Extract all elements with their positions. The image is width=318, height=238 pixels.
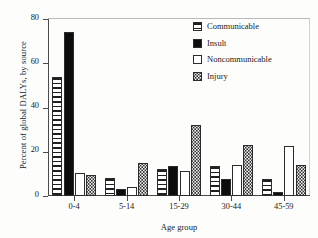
legend-label: Noncommunicable: [207, 55, 272, 64]
bar-injury-5-14: [138, 163, 148, 196]
bar-noncommunicable-0-4: [75, 173, 85, 196]
bar-insult-45-59: [273, 192, 283, 196]
bar-insult-0-4: [64, 32, 74, 196]
x-tick-label-30-44: 30-44: [201, 202, 261, 211]
bar-group-5-14: [100, 19, 152, 196]
legend-item-insult: Insult: [193, 39, 272, 48]
bar-insult-15-29: [168, 166, 178, 196]
swatch-empty-icon: [193, 55, 202, 64]
chart-legend: CommunicableInsultNoncommunicableInjury: [193, 22, 272, 81]
legend-label: Communicable: [207, 22, 259, 31]
swatch-solid-icon: [193, 39, 202, 48]
legend-item-communicable: Communicable: [193, 22, 272, 31]
x-axis-title: Age group: [48, 222, 310, 232]
y-tick-label: 40: [31, 101, 39, 110]
y-tick-label: 0: [35, 190, 39, 199]
x-tick-mark-5-14: [127, 196, 128, 201]
y-tick-mark: [43, 196, 48, 197]
x-tick-mark-30-44: [231, 196, 232, 201]
bar-noncommunicable-5-14: [127, 187, 137, 196]
bar-noncommunicable-30-44: [232, 165, 242, 196]
y-axis-title: Percent of global DALYs, by source: [18, 20, 28, 190]
bar-injury-30-44: [243, 145, 253, 196]
legend-label: Injury: [207, 72, 228, 81]
bar-communicable-0-4: [52, 77, 62, 196]
bar-insult-30-44: [221, 179, 231, 196]
legend-label: Insult: [207, 39, 226, 48]
x-tick-label-5-14: 5-14: [97, 202, 157, 211]
x-tick-mark-15-29: [179, 196, 180, 201]
y-tick-label: 80: [31, 13, 39, 22]
bar-group-0-4: [48, 19, 100, 196]
x-tick-mark-45-59: [284, 196, 285, 201]
bar-injury-15-29: [191, 125, 201, 196]
x-tick-label-15-29: 15-29: [149, 202, 209, 211]
legend-item-injury: Injury: [193, 72, 272, 81]
bar-communicable-30-44: [210, 166, 220, 196]
bar-injury-45-59: [296, 165, 306, 196]
legend-item-noncommunicable: Noncommunicable: [193, 55, 272, 64]
bar-insult-5-14: [116, 189, 126, 196]
bar-noncommunicable-45-59: [284, 146, 294, 196]
bar-injury-0-4: [86, 175, 96, 196]
swatch-dotted-icon: [193, 72, 202, 81]
y-tick-label: 60: [31, 57, 39, 66]
chart-figure: Percent of global DALYs, by source 02040…: [0, 0, 318, 238]
x-tick-label-0-4: 0-4: [44, 202, 104, 211]
bar-noncommunicable-15-29: [180, 171, 190, 196]
x-tick-mark-0-4: [74, 196, 75, 201]
bar-communicable-5-14: [105, 178, 115, 196]
y-tick-label: 20: [31, 145, 39, 154]
x-tick-label-45-59: 45-59: [254, 202, 314, 211]
bar-communicable-45-59: [262, 179, 272, 196]
swatch-striped-icon: [193, 22, 202, 31]
bar-communicable-15-29: [157, 169, 167, 196]
